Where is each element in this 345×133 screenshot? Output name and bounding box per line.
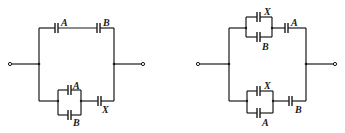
capacitor-x-top-parallel: X bbox=[263, 6, 271, 17]
capacitor-b-top-parallel: B bbox=[261, 41, 269, 52]
svg-text:A: A bbox=[60, 17, 68, 28]
svg-text:X: X bbox=[263, 80, 271, 91]
svg-text:B: B bbox=[72, 117, 80, 128]
svg-text:X: X bbox=[101, 104, 109, 115]
svg-text:B: B bbox=[261, 41, 269, 52]
svg-text:A: A bbox=[290, 17, 298, 28]
terminal-right-in bbox=[196, 62, 199, 65]
svg-text:B: B bbox=[102, 17, 110, 28]
capacitor-b-bottom-series: B bbox=[294, 104, 302, 115]
capacitor-b-top: B bbox=[102, 17, 110, 28]
svg-text:X: X bbox=[263, 6, 271, 17]
svg-text:B: B bbox=[294, 104, 302, 115]
terminal-left-out bbox=[141, 62, 144, 65]
capacitor-a-top: A bbox=[60, 17, 68, 28]
capacitor-a-top-series: A bbox=[290, 17, 298, 28]
terminal-right-out bbox=[333, 62, 336, 65]
terminal-left-in bbox=[8, 62, 11, 65]
svg-text:A: A bbox=[72, 80, 80, 91]
capacitor-b-parallel: B bbox=[72, 117, 80, 128]
capacitor-x-bottom-parallel: X bbox=[263, 80, 271, 91]
circuit-left: A B A B X bbox=[8, 17, 144, 128]
circuit-right: X B A X A B bbox=[196, 6, 336, 128]
capacitor-x-series: X bbox=[101, 104, 109, 115]
capacitor-a-parallel: A bbox=[72, 80, 80, 91]
circuit-diagrams: A B A B X bbox=[0, 0, 345, 133]
svg-text:A: A bbox=[261, 117, 269, 128]
capacitor-a-bottom-parallel: A bbox=[261, 117, 269, 128]
